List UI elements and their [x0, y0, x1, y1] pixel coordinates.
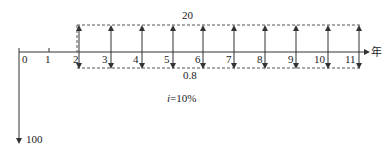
interest-rate: i=10% [167, 92, 196, 104]
initial-outflow-label: 100 [26, 133, 43, 145]
outflow-label: 0.8 [183, 69, 197, 81]
interest-rate-value: =10% [170, 92, 196, 104]
axis-unit-label: 年 [371, 45, 382, 59]
year-label: 0 [22, 53, 28, 65]
cash-flow-diagram: 年 100 0 1 2 3 4 5 [0, 0, 389, 154]
year-label: 1 [45, 53, 51, 65]
inflow-arrows [79, 28, 359, 52]
inflow-label: 20 [182, 9, 194, 21]
year-label: 8 [257, 53, 263, 65]
year-label: 11 [345, 53, 356, 65]
year-label: 3 [102, 53, 108, 65]
year-label: 5 [164, 53, 170, 65]
year-labels: 0 1 2 3 4 5 6 7 8 9 10 11 [22, 53, 356, 65]
year-label: 2 [73, 53, 79, 65]
year-label: 4 [133, 53, 139, 65]
year-label: 7 [226, 53, 232, 65]
year-label: 9 [288, 53, 294, 65]
year-label: 10 [314, 53, 326, 65]
year-label: 6 [195, 53, 201, 65]
